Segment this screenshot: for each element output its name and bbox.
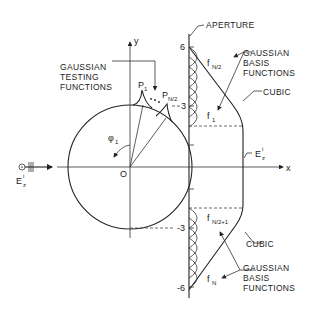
basis-gaussians-upper bbox=[189, 47, 197, 127]
f1-label: f bbox=[207, 111, 210, 121]
tick-3: 3 bbox=[181, 101, 186, 111]
incident-field-label: E bbox=[16, 176, 22, 186]
testing-label-1: GAUSSIAN bbox=[60, 62, 106, 72]
ez-leader bbox=[244, 153, 252, 158]
testing-label-2: TESTING bbox=[60, 72, 99, 82]
p1-sub: 1 bbox=[144, 86, 148, 92]
aperture-field-profile bbox=[189, 47, 243, 290]
testing-leader bbox=[112, 61, 155, 90]
tick-6: 6 bbox=[180, 42, 185, 52]
tick-m3: -3 bbox=[177, 223, 185, 233]
fn2-label: f bbox=[207, 58, 210, 68]
tick-m6: -6 bbox=[177, 283, 185, 293]
incident-field-sub: z bbox=[23, 182, 26, 188]
fn2p1-label: f bbox=[207, 213, 210, 223]
aperture-field-sup: i bbox=[262, 146, 263, 152]
basis-top-label-2: BASIS bbox=[243, 58, 270, 68]
cubic-top-label: CUBIC bbox=[263, 87, 291, 97]
angle-label: φ bbox=[108, 133, 114, 143]
f1-sub: 1 bbox=[212, 117, 216, 123]
y-axis-label: y bbox=[134, 36, 139, 46]
aperture-field-label: E bbox=[255, 149, 261, 159]
angle-sub: 1 bbox=[115, 139, 119, 145]
fn2-sub: N/2 bbox=[212, 64, 222, 70]
aperture-field-sub: z bbox=[262, 155, 265, 161]
fn-sub: N bbox=[212, 280, 216, 286]
x-axis-label: x bbox=[286, 163, 291, 173]
angle-arc bbox=[114, 145, 130, 157]
origin-label: O bbox=[120, 169, 127, 179]
fn2p1-sub: N/2+1 bbox=[212, 219, 229, 225]
basis-bottom-label-3: FUNCTIONS bbox=[243, 283, 295, 293]
pn2-sub: N/2 bbox=[168, 96, 178, 102]
testing-label-3: FUNCTIONS bbox=[60, 82, 112, 92]
basis-top-label-3: FUNCTIONS bbox=[243, 68, 295, 78]
diagram-canvas: APERTURE GAUSSIAN TESTING FUNCTIONS GAUS… bbox=[0, 0, 313, 318]
basis-bottom-label-1: GAUSSIAN bbox=[243, 263, 289, 273]
fn-label: f bbox=[207, 274, 210, 284]
incident-field-sup: i bbox=[23, 173, 24, 179]
cubic-leader-top bbox=[243, 91, 262, 101]
basis-top-label-1: GAUSSIAN bbox=[243, 48, 289, 58]
basis-gaussians-lower bbox=[189, 208, 197, 288]
aperture-label: APERTURE bbox=[206, 20, 255, 30]
basis-bottom-label-2: BASIS bbox=[243, 273, 270, 283]
cubic-bottom-label: CUBIC bbox=[246, 239, 274, 249]
aperture-leader bbox=[190, 25, 204, 36]
